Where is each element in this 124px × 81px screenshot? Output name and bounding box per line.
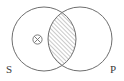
venn-diagram-svg: S P xyxy=(0,0,124,81)
circled-x-marker xyxy=(33,35,42,44)
label-predicate-p: P xyxy=(110,63,116,75)
venn-diagram-container: S P xyxy=(0,0,124,81)
label-subject-s: S xyxy=(6,63,12,75)
